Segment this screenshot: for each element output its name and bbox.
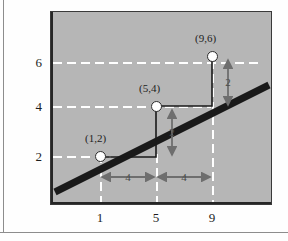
data-point-1-2[interactable]: [95, 151, 106, 162]
page-frame-left-rule: [3, 0, 4, 233]
x-axis-tick-label-1: 1: [91, 210, 109, 226]
rise-arrow-1-label: 2: [165, 126, 179, 138]
data-point-label-1-2: (1,2): [85, 132, 106, 144]
figure-root: 6 4 2 1 5 9: [0, 0, 288, 241]
data-point-label-5-4: (5,4): [139, 82, 160, 94]
plot-panel: 4 4 2 2 (1,2) (5,4) (9,6): [50, 11, 272, 205]
data-point-5-4[interactable]: [151, 101, 162, 112]
y-axis-line: [51, 12, 53, 205]
page-frame-bottom-rule: [0, 232, 288, 233]
x-axis-line: [51, 202, 272, 204]
x-axis-tick-label-9: 9: [203, 210, 221, 226]
run-arrow-1-label: 4: [119, 171, 137, 183]
y-axis-tick-label-6: 6: [24, 55, 42, 71]
data-point-label-9-6: (9,6): [195, 32, 216, 44]
x-axis-tick-label-5: 5: [147, 210, 165, 226]
y-axis-tick-label-2: 2: [24, 149, 42, 165]
y-axis-tick-label-4: 4: [24, 99, 42, 115]
data-point-9-6[interactable]: [207, 51, 218, 62]
rise-arrow-2-label: 2: [221, 76, 235, 88]
run-arrow-2-label: 4: [175, 171, 193, 183]
